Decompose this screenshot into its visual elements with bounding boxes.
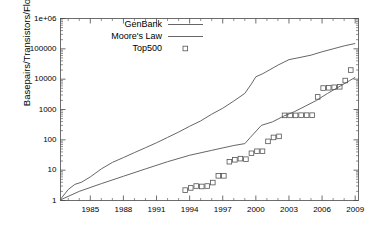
y-tick-label: 1e+06 bbox=[34, 14, 56, 23]
series-marker bbox=[183, 188, 188, 193]
series-marker bbox=[227, 159, 232, 164]
legend-entry-moore-s-law: Moore's Law bbox=[62, 31, 162, 41]
series-marker bbox=[255, 149, 260, 154]
series-marker bbox=[326, 85, 331, 90]
y-tick-label: 10 bbox=[48, 165, 57, 174]
y-tick-label: 1 bbox=[52, 196, 56, 205]
x-tick-label: 2009 bbox=[335, 205, 373, 214]
legend-entry-top500: Top500 bbox=[62, 43, 162, 53]
legend-samples bbox=[168, 25, 203, 51]
y-tick-label: 100 bbox=[43, 135, 56, 144]
series-marker bbox=[266, 139, 271, 144]
y-tick-label: 1000 bbox=[39, 105, 57, 114]
series-marker bbox=[293, 113, 298, 118]
series-marker bbox=[205, 184, 210, 189]
series-marker bbox=[260, 149, 265, 154]
series-marker bbox=[299, 113, 304, 118]
y-tick-label: 100000 bbox=[30, 44, 57, 53]
data-series bbox=[61, 43, 356, 199]
series-marker bbox=[238, 156, 243, 161]
series-marker bbox=[222, 174, 227, 179]
series-marker bbox=[304, 113, 309, 118]
legend-entry-genbank: GenBank bbox=[62, 19, 162, 29]
series-marker bbox=[211, 180, 216, 185]
y-tick-label: 10000 bbox=[34, 74, 56, 83]
series-marker bbox=[233, 157, 238, 162]
series-marker bbox=[216, 174, 221, 179]
series-marker bbox=[188, 186, 193, 191]
series-line-0 bbox=[61, 43, 356, 199]
series-line-1 bbox=[61, 77, 356, 200]
series-marker bbox=[249, 151, 254, 156]
plot-area bbox=[0, 0, 373, 228]
series-marker bbox=[271, 135, 276, 140]
series-marker bbox=[199, 184, 204, 189]
series-marker bbox=[348, 68, 353, 73]
series-marker bbox=[277, 134, 282, 139]
chart-figure: Basepairs/Transistors/Flops 110100100010… bbox=[0, 0, 373, 228]
series-marker bbox=[244, 157, 249, 162]
series-marker bbox=[310, 113, 315, 118]
series-marker bbox=[194, 184, 199, 189]
series-marker bbox=[321, 86, 326, 91]
